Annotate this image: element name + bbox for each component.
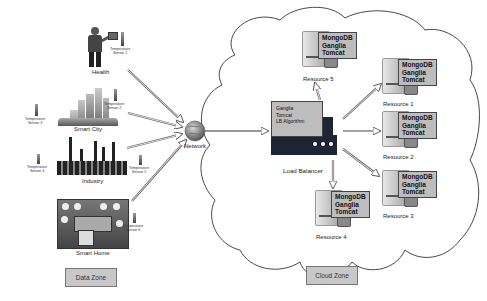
health-person-icon [85,27,105,67]
sensor-1-tower-icon [121,32,124,46]
sensor-3-tower-icon [35,104,38,116]
sensor-6-tower-icon [133,213,136,223]
sensor-1-label: Temperature Sensor 1 [110,47,130,55]
smart-city-label: Smart City [74,126,102,132]
resource-1-label: Resource 1 [383,101,414,107]
cloud-zone-label: Cloud Zone [306,266,358,285]
smart-home-panel-icon [57,199,129,249]
sensor-6-label: Temperature Sensor 6 [123,224,143,232]
health-monitor-icon [108,32,118,40]
resource-4-label: Resource 4 [316,234,347,240]
sensor-4-tower-icon [37,154,40,164]
health-label: Health [92,69,109,75]
resource-3-label: Resource 3 [383,213,414,219]
load-balancer-stack-box: Ganglia Tomcat LB Algorithm [271,101,323,137]
network-label: Network [184,143,206,149]
load-balancer-label: Load Balancer [283,167,323,174]
sensor-2-tower-icon [114,89,117,101]
sensor-2-label: Temperature Sensor 2 [104,102,124,110]
resource-2-stack-box: MongoDB Ganglia Tomcat [398,112,437,139]
industry-label: Industry [82,178,103,184]
network-globe-icon [185,121,205,141]
resource-3-stack-box: MongoDB Ganglia Tomcat [398,171,437,198]
sensor-3-label: Temperature Sensor 3 [25,117,45,125]
resource-4-stack-box: MongoDB Ganglia Tomcat [331,191,370,218]
sensor-4-label: Temperature Sensor 4 [27,165,47,173]
resource-5-label: Resource 5 [303,76,334,82]
sensor-5-tower-icon [139,155,142,165]
resource-1-stack-box: MongoDB Ganglia Tomcat [398,59,437,86]
data-zone-label: Data Zone [65,268,117,287]
smart-home-label: Smart Home [76,250,110,256]
resource-5-stack-box: MongoDB Ganglia Tomcat [318,32,357,59]
sensor-5-label: Temperature Sensor 5 [129,166,149,174]
resource-2-label: Resource 2 [383,154,414,160]
industry-factory-icon [57,137,127,175]
